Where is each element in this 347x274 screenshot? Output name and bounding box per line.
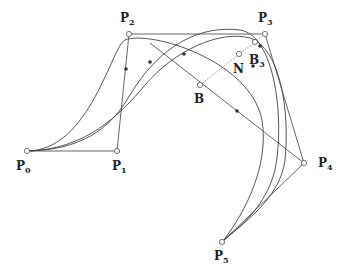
filled-point [258,44,262,48]
label-n: N [233,62,244,76]
filled-point [182,52,186,56]
label-p1: P1 [112,159,127,175]
point-marker-p5 [219,239,224,244]
label-b3: B3 [249,53,265,69]
filled-point [148,60,152,64]
point-marker-n [236,51,241,56]
point-marker-p0 [24,148,29,153]
point-marker-p1 [114,148,119,153]
point-marker-b [197,82,202,87]
bezier-curve-0 [27,38,263,242]
point-marker-p3 [262,31,267,36]
label-p0: P0 [16,159,31,175]
label-p3: P3 [258,11,273,27]
label-p5: P5 [214,249,229,265]
point-marker-b3 [252,39,257,44]
point-marker-p4 [301,160,306,165]
label-b: B [194,92,204,106]
filled-point [235,109,239,113]
label-p4: P4 [318,156,333,172]
bezier-curves [27,29,286,242]
bezier-diagram: P0P1P2P3P4P5BNB3 [0,0,347,274]
bezier-curve-2 [27,36,286,242]
label-p2: P2 [120,11,135,27]
filled-point [124,67,128,71]
point-marker-p2 [126,31,131,36]
line-p1-to-p4-through-b [150,43,304,163]
point-labels: P0P1P2P3P4P5BNB3 [16,11,333,265]
